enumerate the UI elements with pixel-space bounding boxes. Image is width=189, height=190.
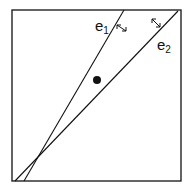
label-e1: e1	[95, 18, 109, 36]
label-e2: e2	[157, 37, 171, 55]
double-arrow-icon	[117, 25, 126, 31]
double-arrow-icon	[152, 19, 160, 27]
point-dot	[93, 76, 101, 84]
line-e2	[15, 11, 178, 181]
